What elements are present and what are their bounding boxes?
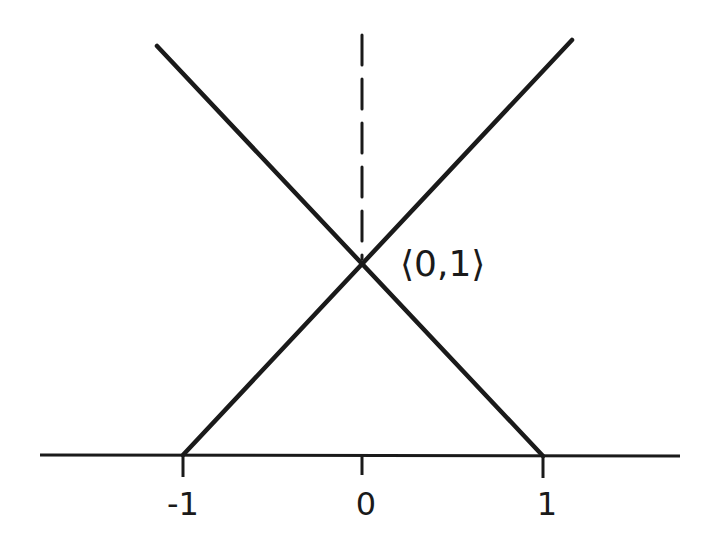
tick-label-0: 0	[356, 485, 376, 523]
x-axis	[40, 455, 680, 456]
tick-label-1: 1	[537, 485, 557, 523]
intersection-label: ⟨0,1⟩	[400, 243, 485, 284]
tick-label-minus-1: -1	[167, 485, 199, 523]
rising-line	[183, 40, 572, 455]
diagram-canvas: ⟨0,1⟩ -1 0 1	[0, 0, 711, 547]
